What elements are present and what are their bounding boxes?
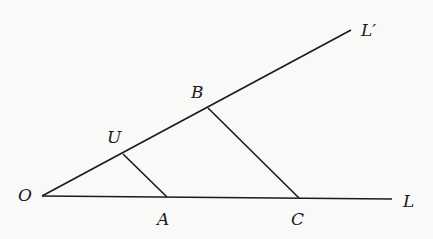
label-C: C [291, 211, 304, 228]
ray-L-prime [42, 30, 351, 196]
segment-BC [208, 108, 299, 198]
geometry-diagram: O L L′ U A B C [0, 0, 433, 239]
label-B: B [191, 84, 204, 101]
label-U: U [107, 129, 121, 146]
label-A: A [157, 211, 169, 228]
label-L: L [403, 193, 414, 210]
label-O: O [18, 187, 32, 204]
segment-UA [123, 154, 167, 197]
label-L-prime: L′ [361, 22, 376, 39]
ray-L [42, 196, 392, 199]
